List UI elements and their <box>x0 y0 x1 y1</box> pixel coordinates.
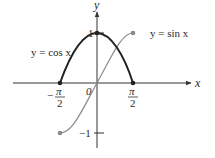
x-axis-label: x <box>194 76 201 90</box>
y-axis-label: y <box>93 0 100 12</box>
cos-label-text: y = cos x <box>31 46 72 58</box>
pi-denominator: 2 <box>130 97 136 109</box>
y-tick-label-1: 1 <box>88 27 94 39</box>
sin-curve-label: y = sin x <box>150 27 189 39</box>
cos-peak <box>95 31 100 36</box>
sin-endpoint-left <box>58 131 63 136</box>
y-tick-label-neg1: −1 <box>79 127 91 139</box>
sin-label-text: y = sin x <box>150 27 189 39</box>
neg-pi-numerator: π <box>56 85 62 97</box>
cos-curve-label: y = cos x <box>31 46 72 58</box>
neg-sign: − <box>47 89 53 101</box>
pi-numerator: π <box>129 85 135 97</box>
origin-label: 0 <box>86 85 92 97</box>
sin-endpoint-right <box>131 31 136 36</box>
neg-pi-denominator: 2 <box>57 97 63 109</box>
graph-canvas: x y 1 −1 0 − π 2 π 2 y = cos x y = sin x <box>0 0 215 158</box>
